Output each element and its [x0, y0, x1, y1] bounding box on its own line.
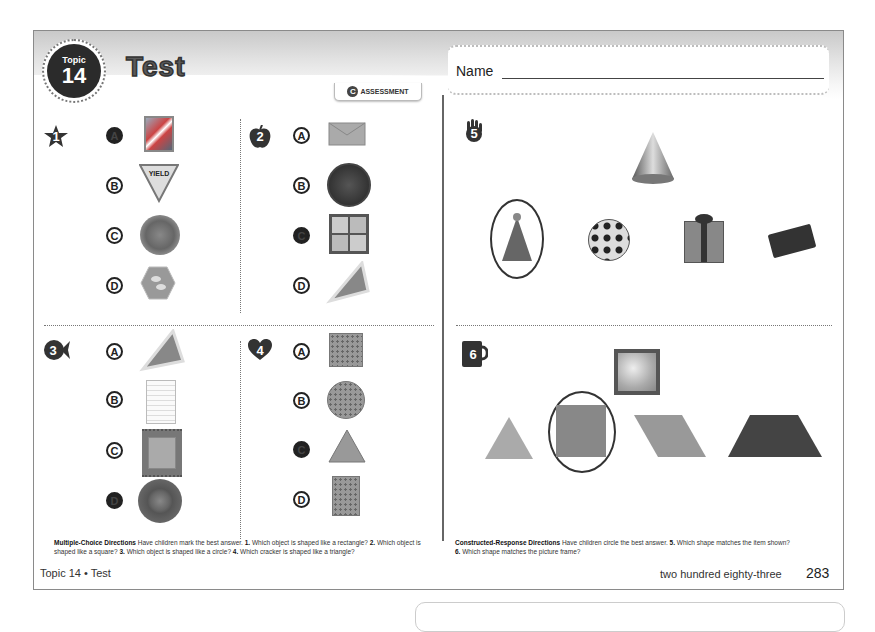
divider-vertical-bottom — [240, 341, 241, 539]
divider-horizontal-left — [44, 325, 434, 326]
divider-horizontal-right — [456, 325, 832, 326]
assessment-label: ASSESSMENT — [360, 88, 408, 95]
q4-option-c-bubble[interactable]: C — [293, 441, 310, 458]
footer-page-words: two hundred eighty-three — [660, 568, 782, 580]
svg-text:YIELD: YIELD — [149, 170, 170, 177]
hexagon-tile-picture — [140, 265, 176, 301]
workbook-page: Topic 14 Test C ASSESSMENT Name 1 A B YI… — [33, 30, 844, 590]
q1-option-b-bubble[interactable]: B — [106, 177, 123, 194]
triangle-cracker-picture — [328, 429, 366, 463]
q2-option-d-bubble[interactable]: D — [293, 277, 310, 294]
pizza-slice-picture — [139, 329, 185, 373]
round-speaker-picture — [138, 479, 182, 523]
square-window-picture — [329, 214, 369, 254]
q3-option-a-bubble[interactable]: A — [106, 343, 123, 360]
divider-vertical-main — [442, 95, 444, 541]
q2-option-a-bubble[interactable]: A — [293, 127, 310, 144]
multiple-choice-directions: Multiple-Choice Directions Have children… — [54, 538, 426, 556]
square-cracker-picture — [329, 333, 363, 367]
rectangle-cracker-picture — [332, 476, 360, 516]
q1-option-a-bubble[interactable]: A — [106, 127, 123, 144]
party-hat-picture — [500, 211, 534, 263]
page-title: Test — [126, 51, 186, 83]
divider-vertical-top — [240, 119, 241, 313]
postage-stamp-flag-picture — [144, 116, 174, 152]
name-input-line[interactable] — [502, 78, 824, 79]
q3-option-b-bubble[interactable]: B — [106, 391, 123, 408]
question-5-number: 5 — [462, 119, 486, 141]
topic-number: 14 — [62, 65, 86, 87]
triangle-shape — [483, 415, 535, 461]
penny-coin-picture — [327, 163, 371, 207]
cone-picture — [630, 131, 676, 186]
name-box: Name — [448, 45, 829, 95]
question-1-number: 1 — [44, 125, 68, 147]
next-page-edge — [415, 602, 845, 632]
q4-option-b-bubble[interactable]: B — [293, 392, 310, 409]
trapezoid-shape — [726, 413, 824, 459]
q1-option-d-bubble[interactable]: D — [106, 277, 123, 294]
topic-badge: Topic 14 — [42, 39, 106, 103]
assessment-tag: C ASSESSMENT — [334, 83, 422, 101]
constructed-response-directions: Constructed-Response Directions Have chi… — [455, 538, 835, 556]
pizza-slice-picture — [326, 261, 370, 305]
question-3-number: 3 — [44, 339, 68, 361]
question-6-number: 6 — [462, 341, 486, 363]
round-plate-picture — [140, 215, 180, 255]
parallelogram-shape — [632, 413, 708, 459]
fish-icon — [44, 339, 70, 361]
square-rug-picture — [142, 429, 182, 477]
question-4-number: 4 — [248, 339, 272, 361]
q3-option-c-bubble[interactable]: C — [106, 442, 123, 459]
question-2-number: 2 — [248, 125, 272, 147]
round-cracker-picture — [327, 381, 365, 419]
notepaper-picture — [146, 380, 176, 424]
q1-option-c-bubble[interactable]: C — [106, 227, 123, 244]
envelope-picture — [328, 122, 366, 146]
name-label: Name — [456, 63, 493, 79]
q2-option-b-bubble[interactable]: B — [293, 177, 310, 194]
gift-box-picture — [684, 221, 724, 263]
q4-option-d-bubble[interactable]: D — [293, 491, 310, 508]
footer-topic-label: Topic 14 • Test — [40, 567, 111, 579]
square-shape — [556, 405, 606, 457]
q3-option-d-bubble[interactable]: D — [106, 492, 123, 509]
q4-option-a-bubble[interactable]: A — [293, 343, 310, 360]
footer-page-number: 283 — [806, 565, 829, 581]
brick-picture — [768, 224, 817, 259]
soccer-ball-picture — [588, 219, 630, 261]
q2-option-c-bubble[interactable]: C — [293, 227, 310, 244]
yield-sign-picture: YIELD — [139, 163, 179, 203]
picture-frame-picture — [614, 349, 660, 395]
c-circle-icon: C — [347, 86, 358, 97]
